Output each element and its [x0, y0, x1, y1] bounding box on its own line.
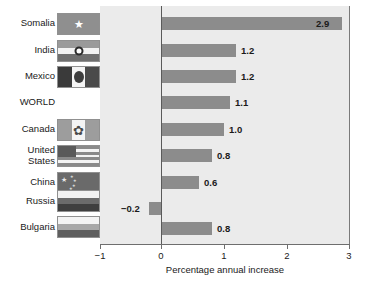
india-flag [57, 40, 100, 62]
x-tick-label-neg1: −1 [95, 250, 106, 261]
bar-value-india: 1.2 [241, 44, 254, 57]
bar-bulgaria [162, 222, 212, 235]
bulgaria-flag [57, 216, 100, 238]
star-icon: ★ [61, 176, 67, 183]
category-label-russia: Russia [0, 196, 55, 207]
bar-canada [162, 123, 224, 136]
bar-china [162, 176, 199, 189]
category-label-world: WORLD [0, 97, 55, 108]
bar-value-somalia: 2.9 [316, 17, 329, 30]
x-tick-label-0: 0 [158, 250, 163, 261]
x-axis-title: Percentage annual increase [100, 264, 350, 275]
bar-world [162, 96, 230, 109]
x-tick-mark-3 [349, 244, 350, 249]
category-label-bulgaria: Bulgaria [0, 222, 55, 233]
category-label-united-states-line2: States [0, 156, 55, 167]
russia-flag [57, 190, 100, 212]
bar-united-states [162, 149, 212, 162]
somalia-flag: ★ [57, 13, 100, 35]
canada-flag: ✿ [57, 119, 100, 141]
ashoka-chakra-icon [74, 47, 83, 56]
category-label-somalia: Somalia [0, 18, 55, 29]
x-tick-mark-neg1 [100, 244, 101, 249]
maple-leaf-icon: ✿ [73, 124, 84, 137]
bar-value-united-states: 0.8 [217, 149, 230, 162]
x-tick-label-3: 3 [346, 250, 351, 261]
bar-value-canada: 1.0 [229, 123, 242, 136]
x-tick-label-1: 1 [221, 250, 226, 261]
bar-somalia [162, 17, 342, 30]
bar-india [162, 44, 236, 57]
x-tick-label-2: 2 [284, 250, 289, 261]
bar-russia [149, 202, 161, 215]
category-label-india: India [0, 45, 55, 56]
category-label-canada: Canada [0, 124, 55, 135]
bar-value-mexico: 1.2 [241, 70, 254, 83]
us-canton [58, 146, 76, 157]
star-icon: ★ [74, 19, 84, 30]
category-label-china: China [0, 177, 55, 188]
bar-value-russia: −0.2 [121, 202, 140, 215]
category-label-united-states: United [0, 145, 55, 156]
eagle-emblem-icon [74, 71, 84, 83]
bar-value-world: 1.1 [235, 96, 248, 109]
x-tick-mark-2 [287, 244, 288, 249]
bar-value-bulgaria: 0.8 [217, 222, 230, 235]
x-tick-mark-1 [224, 244, 225, 249]
bar-value-china: 0.6 [204, 176, 217, 189]
x-tick-mark-0 [161, 244, 162, 249]
bar-mexico [162, 70, 236, 83]
mexico-flag [57, 66, 100, 88]
category-label-mexico: Mexico [0, 71, 55, 82]
x-axis-line [100, 244, 350, 245]
bar-chart: ★ ✿ [0, 0, 367, 283]
united-states-flag [57, 145, 100, 167]
